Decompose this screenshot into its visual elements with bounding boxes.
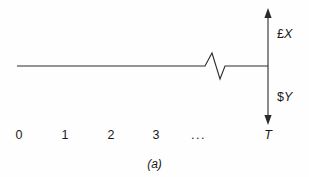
lower-amount-label: $Y	[277, 91, 292, 104]
upper-currency-symbol: £	[277, 27, 284, 41]
tick-label-0: 0	[12, 129, 26, 142]
tick-label-ellipsis: ...	[191, 129, 206, 142]
lower-variable-symbol: Y	[284, 90, 292, 104]
upper-variable-symbol: X	[284, 27, 292, 41]
figure-caption: (a)	[0, 158, 309, 170]
cash-flow-baseline-path	[17, 53, 268, 79]
tick-label-terminal: T	[261, 129, 275, 142]
arrow-down-icon	[264, 115, 271, 125]
cash-flow-diagram-svg	[0, 0, 309, 177]
cash-flow-figure: £X $Y 0 1 2 3 ... T (a)	[0, 0, 309, 177]
tick-label-3: 3	[149, 129, 163, 142]
tick-label-2: 2	[104, 129, 118, 142]
tick-label-1: 1	[58, 129, 72, 142]
upper-amount-label: £X	[277, 28, 292, 41]
arrow-up-icon	[264, 8, 271, 18]
lower-currency-symbol: $	[277, 90, 284, 104]
